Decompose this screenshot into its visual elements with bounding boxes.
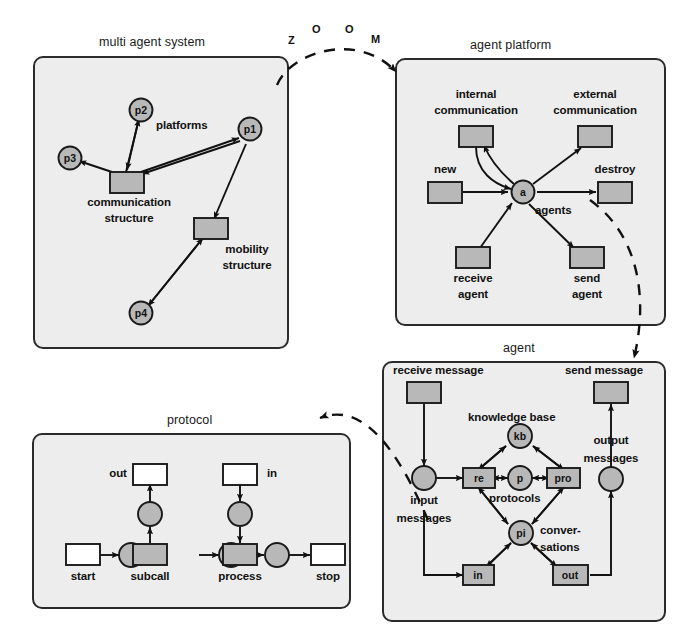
label-mobility-structure-line2: structure xyxy=(204,259,290,271)
node-agents-inner: a xyxy=(520,186,526,198)
node-subcall xyxy=(133,544,167,565)
node-internal-communication xyxy=(459,126,493,147)
label-send-message: send message xyxy=(565,364,643,376)
node-pro-inner: pro xyxy=(555,472,572,484)
panel-title-multi-agent-system: multi agent system xyxy=(99,35,205,49)
panel-title-protocol: protocol xyxy=(167,413,212,427)
label-input-messages-line2: messages xyxy=(387,512,461,524)
node-input-messages xyxy=(412,466,436,490)
node-send-message xyxy=(594,382,628,403)
node-pi-inner: pi xyxy=(516,527,525,539)
node-process xyxy=(223,544,257,565)
label-communication-structure-line2: structure xyxy=(74,212,184,224)
node-receive-agent xyxy=(456,247,490,268)
label-receive-agent-line1: receive xyxy=(443,272,503,284)
zoom-letter-o1: O xyxy=(312,23,321,35)
label-receive-message: receive message xyxy=(393,364,484,376)
node-out-place xyxy=(138,502,162,526)
label-send-agent-line2: agent xyxy=(557,288,617,300)
label-input-messages-line1: input xyxy=(400,494,448,506)
zoom-connector-1 xyxy=(277,49,396,85)
node-send-agent xyxy=(570,247,604,268)
node-in-box xyxy=(223,464,257,485)
label-external-communication-line2: communication xyxy=(540,104,650,116)
label-internal-communication-line2: communication xyxy=(421,104,531,116)
label-communication-structure-line1: communication xyxy=(74,196,184,208)
zoom-letter-m: M xyxy=(371,33,380,45)
node-p3-inner: p3 xyxy=(64,152,76,164)
label-in: in xyxy=(262,467,282,479)
zoom-letter-o2: O xyxy=(345,23,354,35)
label-destroy: destroy xyxy=(588,163,642,175)
node-stop xyxy=(311,544,345,565)
node-in-inner: in xyxy=(473,569,482,581)
node-new xyxy=(428,182,462,203)
node-p-inner: p xyxy=(517,472,523,484)
label-agents: agents xyxy=(535,204,571,216)
node-start xyxy=(66,544,100,565)
diagram-stage: p2 p3 p1 p4 xyxy=(0,0,695,643)
node-p2-inner: p2 xyxy=(135,104,147,116)
label-mobility-structure-line1: mobility xyxy=(204,243,290,255)
label-stop: stop xyxy=(309,570,347,582)
node-destroy xyxy=(598,182,632,203)
label-protocols: protocols xyxy=(489,492,541,504)
label-output-messages-line2: messages xyxy=(574,452,648,464)
node-stop-place xyxy=(265,543,289,567)
label-out: out xyxy=(106,467,130,479)
node-p1-inner: p1 xyxy=(244,123,256,135)
label-send-agent-line1: send xyxy=(557,272,617,284)
panel-title-agent: agent xyxy=(503,341,535,355)
label-start: start xyxy=(64,570,102,582)
zoom-letter-z: Z xyxy=(288,34,295,46)
label-subcall: subcall xyxy=(122,570,178,582)
node-output-messages xyxy=(599,467,623,491)
node-mobility-structure xyxy=(194,218,228,239)
label-conversations-line1: conver- xyxy=(540,524,581,536)
panel-title-agent-platform: agent platform xyxy=(470,38,551,52)
node-in-place xyxy=(228,502,252,526)
node-kb-inner: kb xyxy=(514,430,526,442)
label-external-communication-line1: external xyxy=(540,88,650,100)
node-out-box xyxy=(133,464,167,485)
node-out-inner: out xyxy=(562,569,579,581)
node-p4-inner: p4 xyxy=(135,307,147,319)
node-receive-message xyxy=(407,382,441,403)
label-knowledge-base: knowledge base xyxy=(468,411,555,423)
node-external-communication xyxy=(578,126,612,147)
node-re-inner: re xyxy=(474,472,484,484)
label-new: new xyxy=(418,163,472,175)
label-platforms: platforms xyxy=(156,119,208,131)
label-process: process xyxy=(212,570,268,582)
label-receive-agent-line2: agent xyxy=(443,288,503,300)
node-communication-structure xyxy=(110,172,144,193)
label-conversations-line2: sations xyxy=(540,541,580,553)
label-output-messages-line1: output xyxy=(587,434,635,446)
label-internal-communication-line1: internal xyxy=(421,88,531,100)
